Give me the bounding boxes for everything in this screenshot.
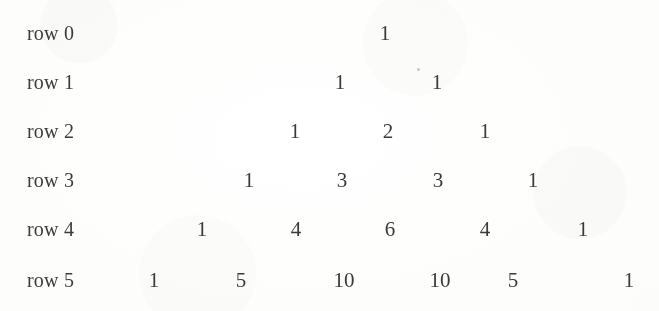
scan-speck (417, 68, 420, 71)
triangle-cell: 1 (511, 165, 555, 195)
triangle-cell: 1 (132, 265, 176, 295)
row-label-4: row 4 (27, 214, 74, 244)
triangle-cell: 6 (368, 214, 412, 244)
row-label-1: row 1 (27, 67, 74, 97)
triangle-cell: 1 (318, 67, 362, 97)
row-label-0: row 0 (27, 18, 74, 48)
triangle-cell: 1 (607, 265, 651, 295)
triangle-cell: 1 (415, 67, 459, 97)
triangle-row: row 2121 (0, 116, 659, 146)
triangle-cell: 2 (366, 116, 410, 146)
triangle-cell: 4 (463, 214, 507, 244)
row-label-5: row 5 (27, 265, 74, 295)
triangle-cell: 3 (320, 165, 364, 195)
row-label-2: row 2 (27, 116, 74, 146)
triangle-cell: 5 (219, 265, 263, 295)
triangle-cell: 1 (463, 116, 507, 146)
triangle-row: row 414641 (0, 214, 659, 244)
triangle-cell: 1 (561, 214, 605, 244)
triangle-cell: 1 (363, 18, 407, 48)
triangle-cell: 4 (274, 214, 318, 244)
triangle-cell: 5 (491, 265, 535, 295)
triangle-cell: 3 (416, 165, 460, 195)
row-label-3: row 3 (27, 165, 74, 195)
scanned-page: row 01row 111row 2121row 31331row 414641… (0, 0, 659, 311)
triangle-row: row 01 (0, 18, 659, 48)
triangle-cell: 10 (322, 265, 366, 295)
triangle-row: row 111 (0, 67, 659, 97)
triangle-row: row 31331 (0, 165, 659, 195)
triangle-cell: 1 (227, 165, 271, 195)
triangle-cell: 10 (418, 265, 462, 295)
triangle-row: row 515101051 (0, 265, 659, 295)
triangle-cell: 1 (273, 116, 317, 146)
triangle-cell: 1 (180, 214, 224, 244)
